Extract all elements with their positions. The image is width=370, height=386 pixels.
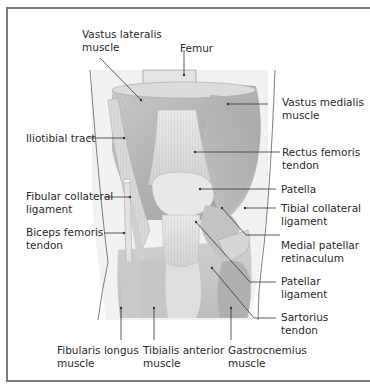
label-rectus-femoris: Rectus femoris tendon bbox=[282, 146, 360, 171]
label-fibularis-longus: Fibularis longus muscle bbox=[57, 344, 139, 369]
label-tibial-collateral: Tibial collateral ligament bbox=[281, 202, 361, 227]
label-femur: Femur bbox=[180, 42, 213, 55]
label-vastus-lateralis: Vastus lateralis muscle bbox=[82, 28, 162, 53]
label-gastrocnemius: Gastrocnemius muscle bbox=[228, 344, 307, 369]
label-fibular-collateral: Fibular collateral ligament bbox=[26, 190, 113, 215]
label-biceps-femoris: Biceps femoris tendon bbox=[26, 226, 103, 251]
label-patellar-ligament: Patellar ligament bbox=[281, 275, 327, 300]
label-tibialis-anterior: Tibialis anterior muscle bbox=[143, 344, 224, 369]
label-iliotibial-tract: Iliotibial tract bbox=[26, 132, 95, 145]
label-vastus-medialis: Vastus medialis muscle bbox=[282, 96, 364, 121]
label-sartorius: Sartorius tendon bbox=[281, 311, 328, 336]
label-patella: Patella bbox=[281, 183, 316, 196]
label-medial-patellar: Medial patellar retinaculum bbox=[281, 239, 359, 264]
gastrocnemius-muscle bbox=[217, 260, 250, 318]
